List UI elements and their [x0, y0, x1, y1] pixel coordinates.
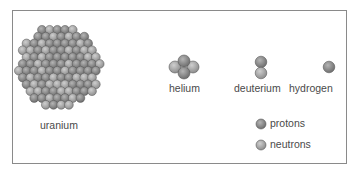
uranium-label: uranium — [40, 119, 78, 131]
helium-nucleus-icon — [168, 54, 204, 82]
neutrons-legend-icon — [255, 139, 267, 151]
helium-label: helium — [169, 82, 200, 94]
deuterium-nucleus-icon — [254, 55, 268, 81]
neutrons-legend-label: neutrons — [270, 138, 311, 150]
protons-legend-label: protons — [270, 117, 305, 129]
hydrogen-nucleus-icon — [322, 60, 336, 74]
protons-legend-icon — [255, 118, 267, 130]
uranium-nucleus-icon — [14, 22, 104, 112]
hydrogen-label: hydrogen — [289, 82, 333, 94]
deuterium-label: deuterium — [234, 82, 281, 94]
